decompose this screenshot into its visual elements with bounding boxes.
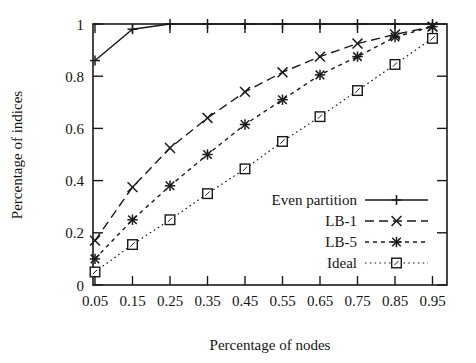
- x-tick-label: 0.25: [157, 293, 183, 309]
- line-chart: 00.20.40.60.81 0.050.150.250.350.450.550…: [0, 0, 476, 363]
- y-tick-label: 0.2: [65, 225, 84, 241]
- x-tick-label: 0.15: [119, 293, 145, 309]
- x-tick-label: 0.45: [232, 293, 258, 309]
- x-axis-title: Percentage of nodes: [210, 337, 331, 353]
- x-tick-label: 0.05: [82, 293, 108, 309]
- x-tick-label: 0.95: [419, 293, 445, 309]
- x-tick-label: 0.85: [382, 293, 408, 309]
- x-tick-label: 0.65: [307, 293, 333, 309]
- legend-label-lb-5: LB-5: [325, 234, 357, 250]
- y-tick-label: 0.4: [65, 173, 84, 189]
- y-tick-label: 0: [77, 278, 85, 294]
- y-tick-label: 0.6: [65, 121, 84, 137]
- legend-label-even-partition: Even partition: [272, 192, 358, 208]
- chart-figure: 00.20.40.60.81 0.050.150.250.350.450.550…: [0, 0, 476, 363]
- x-tick-label: 0.35: [194, 293, 220, 309]
- legend-label-lb-1: LB-1: [325, 213, 357, 229]
- x-tick-label: 0.55: [269, 293, 295, 309]
- legend-label-ideal: Ideal: [327, 255, 357, 271]
- y-tick-label: 0.8: [65, 69, 84, 85]
- x-tick-label: 0.75: [344, 293, 370, 309]
- y-tick-label: 1: [77, 17, 85, 33]
- y-axis-title: Percentage of indices: [9, 91, 25, 219]
